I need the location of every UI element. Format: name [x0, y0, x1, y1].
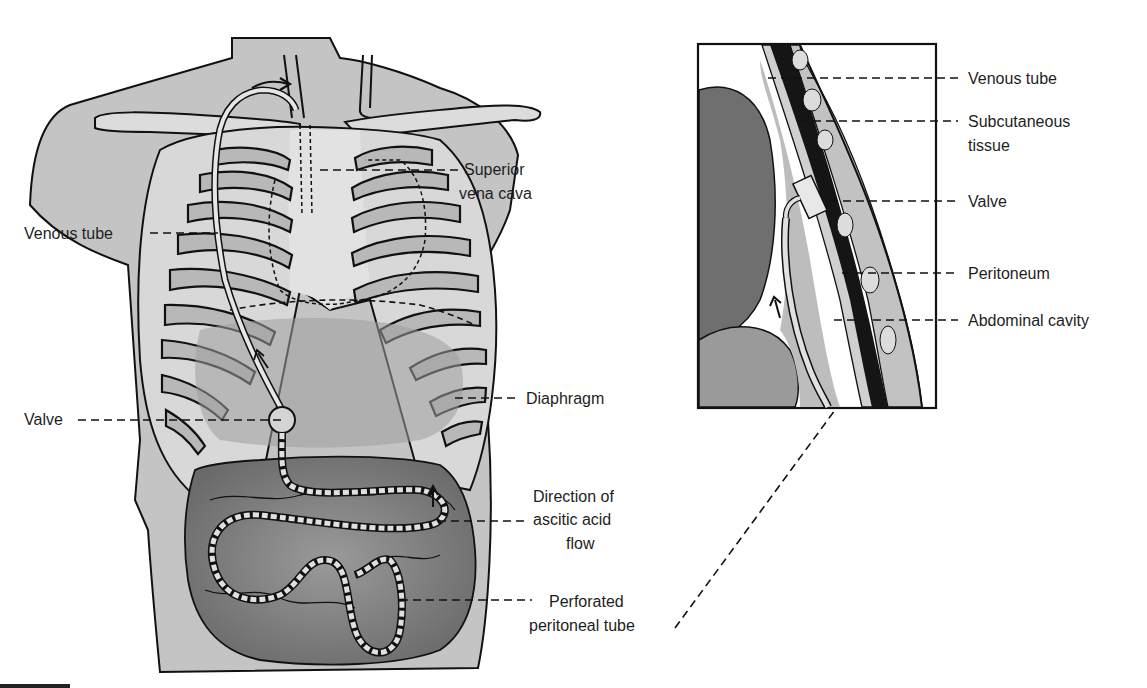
inset-cross-section	[698, 44, 936, 408]
label-inset-venous-tube: Venous tube	[968, 69, 1057, 88]
label-valve: Valve	[24, 410, 63, 429]
torso-illustration	[30, 38, 540, 672]
label-superior-vena-cava-1: Superior	[464, 160, 524, 179]
label-abdominal-cavity: Abdominal cavity	[968, 311, 1089, 330]
liver-area	[195, 318, 463, 447]
label-venous-tube: Venous tube	[24, 224, 113, 243]
label-inset-valve: Valve	[968, 192, 1007, 211]
label-subcutaneous-2: tissue	[968, 136, 1010, 155]
label-subcutaneous-1: Subcutaneous	[968, 112, 1070, 131]
label-perforated-2: peritoneal tube	[529, 616, 635, 635]
label-direction-1: Direction of	[533, 487, 614, 506]
label-perforated-1: Perforated	[549, 592, 624, 611]
label-direction-3: flow	[566, 534, 594, 553]
label-peritoneum: Peritoneum	[968, 264, 1050, 283]
label-superior-vena-cava-2: vena cava	[459, 184, 532, 203]
label-diaphragm: Diaphragm	[526, 389, 604, 408]
shunt-diagram	[0, 0, 1147, 688]
label-direction-2: ascitic acid	[533, 510, 611, 529]
valve-shape	[269, 407, 295, 433]
footer-rule	[0, 684, 70, 688]
